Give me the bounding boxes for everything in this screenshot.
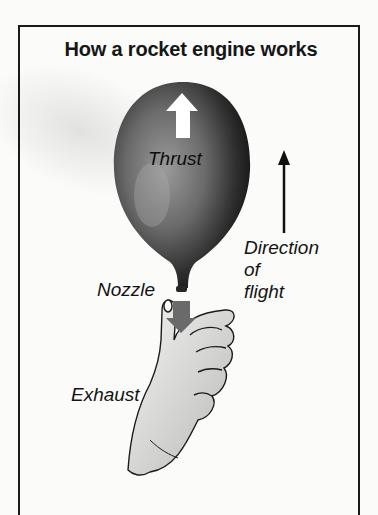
direction-label-line1: Direction	[244, 237, 319, 258]
diagram-title: How a rocket engine works	[20, 38, 362, 61]
diagram-frame: How a rocket engine works	[18, 25, 360, 515]
direction-label-line3: flight	[244, 281, 284, 302]
nozzle-label: Nozzle	[97, 279, 155, 300]
exhaust-label: Exhaust	[71, 384, 140, 405]
thrust-label: Thrust	[148, 148, 202, 169]
direction-label-line2: of	[244, 259, 260, 280]
